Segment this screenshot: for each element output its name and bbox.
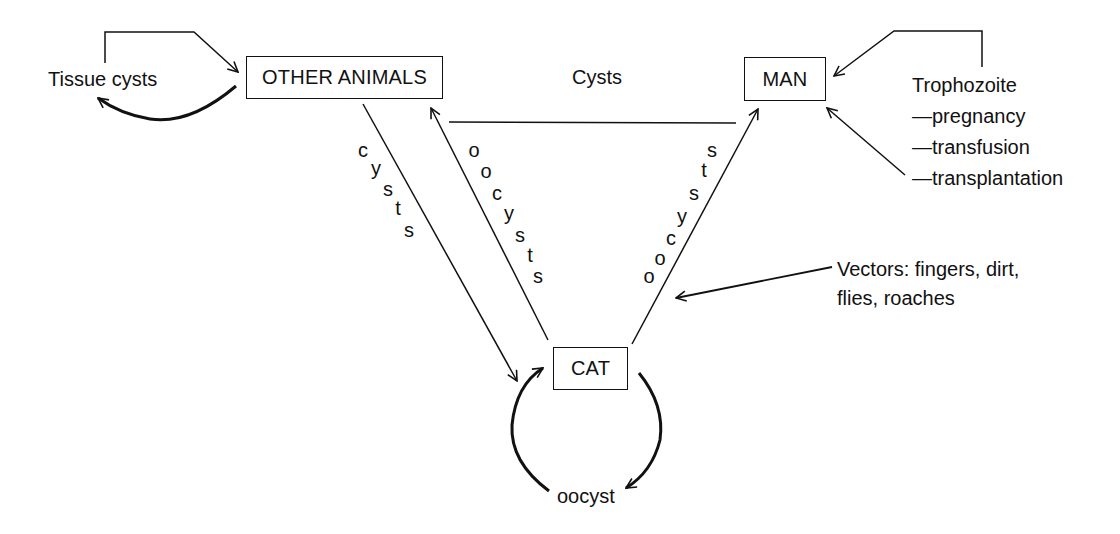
- vectors-line-2: flies, roaches: [837, 284, 1019, 313]
- cat-to-animals-arrow: [431, 108, 548, 340]
- edge-letter: s: [533, 266, 543, 286]
- edge-letter: s: [707, 140, 717, 160]
- toxoplasma-life-cycle-diagram: OTHER ANIMALS MAN CAT Tissue cysts Cysts…: [0, 0, 1120, 534]
- node-cat-label: CAT: [571, 357, 610, 380]
- edge-letter: o: [654, 248, 665, 268]
- vectors-line-1: Vectors: fingers, dirt,: [837, 255, 1019, 284]
- cysts-connector-line: [449, 122, 736, 123]
- edge-letter: y: [504, 203, 514, 223]
- edge-letter: s: [383, 179, 393, 199]
- cat-cycle-left-arc: [512, 368, 549, 491]
- oocyst-cycle-label: oocyst: [557, 486, 615, 506]
- edge-letter: y: [677, 206, 687, 226]
- cat-to-man-arrow: [632, 109, 758, 344]
- edge-letter: s: [404, 220, 414, 240]
- trophozoite-block: Trophozoite —pregnancy —transfusion —tra…: [912, 70, 1063, 194]
- trophozoite-routes-arrow: [827, 108, 905, 175]
- node-cat: CAT: [553, 347, 628, 390]
- edge-letter: c: [492, 183, 502, 203]
- tissue-cysts-bracket-arrow: [105, 32, 238, 72]
- edge-letter: c: [358, 140, 368, 160]
- cysts-top-label: Cysts: [572, 67, 622, 87]
- node-man-label: MAN: [762, 68, 807, 91]
- vectors-block: Vectors: fingers, dirt, flies, roaches: [837, 255, 1019, 313]
- edge-letter: y: [371, 158, 381, 178]
- edge-letter: t: [701, 160, 707, 180]
- edge-letter: s: [689, 183, 699, 203]
- route-transfusion: —transfusion: [912, 132, 1063, 163]
- vectors-arrow: [676, 267, 832, 298]
- edge-letter: t: [527, 245, 533, 265]
- route-transplantation: —transplantation: [912, 163, 1063, 194]
- edge-letter: c: [666, 228, 676, 248]
- node-man: MAN: [744, 57, 826, 101]
- trophozoite-title: Trophozoite: [912, 70, 1063, 101]
- tissue-cysts-return-arrow: [98, 86, 236, 120]
- cat-cycle-right-arc: [626, 373, 661, 488]
- edge-letter: o: [643, 266, 654, 286]
- route-pregnancy: —pregnancy: [912, 101, 1063, 132]
- node-other-animals: OTHER ANIMALS: [246, 56, 443, 99]
- animals-to-cat-arrow: [363, 104, 517, 381]
- node-other-animals-label: OTHER ANIMALS: [262, 66, 427, 89]
- tissue-cysts-label: Tissue cysts: [48, 69, 157, 89]
- edge-letter: o: [468, 140, 479, 160]
- edge-letter: s: [515, 225, 525, 245]
- edge-letter: o: [480, 161, 491, 181]
- edge-letter: t: [395, 198, 401, 218]
